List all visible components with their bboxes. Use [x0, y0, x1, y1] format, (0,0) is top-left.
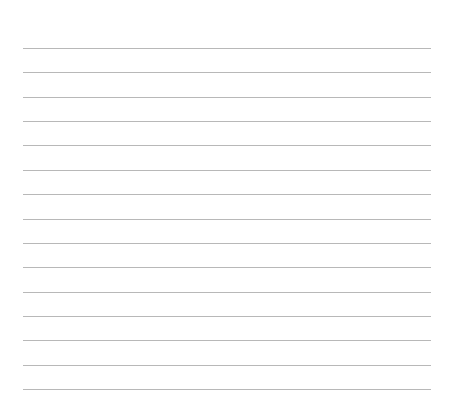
ruled-line — [23, 340, 431, 341]
ruled-line — [23, 48, 431, 49]
ruled-line — [23, 194, 431, 195]
ruled-line — [23, 389, 431, 390]
ruled-line — [23, 72, 431, 73]
ruled-line — [23, 365, 431, 366]
ruled-line — [23, 170, 431, 171]
ruled-line — [23, 145, 431, 146]
ruled-line — [23, 243, 431, 244]
ruled-line — [23, 121, 431, 122]
ruled-line — [23, 316, 431, 317]
ruled-line — [23, 219, 431, 220]
ruled-line — [23, 292, 431, 293]
ruled-line — [23, 97, 431, 98]
lined-paper-page — [0, 0, 453, 418]
ruled-line — [23, 267, 431, 268]
